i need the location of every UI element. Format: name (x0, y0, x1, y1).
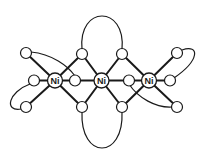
nickel-atom-2: Ni (94, 73, 109, 88)
oxygen-atom (172, 102, 183, 113)
oxygen-atom (124, 75, 135, 86)
bottom-arch-ligand (82, 112, 122, 148)
oxygen-atom (77, 49, 88, 60)
oxygen-atom (117, 49, 128, 60)
oxygen-atom (117, 102, 128, 113)
oxygen-atom (29, 75, 40, 86)
nickel-complex-diagram: Ni Ni Ni (0, 0, 206, 165)
oxygen-atom (172, 48, 183, 59)
oxygen-atom (70, 75, 81, 86)
nickel-atom-1: Ni (48, 73, 63, 88)
nickel-label: Ni (97, 76, 106, 86)
top-arch-ligand (82, 16, 122, 49)
oxygen-atom (77, 102, 88, 113)
oxygen-atom (21, 102, 32, 113)
nickel-label: Ni (51, 76, 60, 86)
oxygen-atom (165, 75, 176, 86)
oxygen-atom (21, 48, 32, 59)
nickel-label: Ni (145, 76, 154, 86)
nickel-atom-3: Ni (142, 73, 157, 88)
